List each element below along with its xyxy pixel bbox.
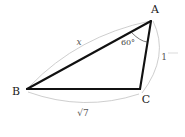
triangle-edge-ab	[27, 21, 151, 89]
dimension-arc-bc	[28, 92, 139, 103]
triangle-edge-ca	[140, 21, 151, 89]
side-label-bc: √7	[77, 108, 89, 118]
vertex-label-b: B	[12, 85, 20, 98]
side-label-ac: 1	[161, 52, 167, 62]
side-label-ab: x	[76, 37, 81, 47]
triangle-diagram-canvas: A B C 60° x 1 √7	[0, 0, 185, 137]
angle-label-a: 60°	[121, 38, 135, 47]
vertex-label-a: A	[150, 3, 160, 16]
vertex-label-c: C	[142, 93, 150, 106]
geometry-figure: A B C 60° x 1 √7	[0, 0, 185, 137]
